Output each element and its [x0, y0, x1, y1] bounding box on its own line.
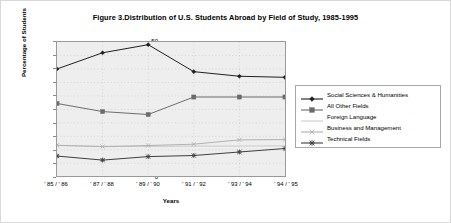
legend-label: Social Sciences & Humanities	[325, 91, 408, 98]
x-axis-tick-label: ' 89 / ' 90	[136, 181, 160, 187]
legend-item[interactable]: Social Sciences & Humanities	[299, 89, 438, 100]
x-axis-title: Years	[56, 197, 286, 204]
legend-item[interactable]: Technical Fields	[299, 133, 438, 144]
x-axis-tick-label: ' 87 / ' 88	[90, 181, 114, 187]
series-all-other-fields	[57, 95, 285, 117]
y-axis-tick-mark	[53, 177, 56, 178]
x-axis-tick-label: ' 85 / ' 86	[44, 181, 68, 187]
y-axis-title: Percentage of Students	[20, 0, 27, 103]
x-axis-tick-label: ' 91 / ' 92	[182, 181, 206, 187]
legend-item[interactable]: All Other Fields	[299, 100, 438, 111]
legend-marker-x-icon	[299, 123, 325, 133]
legend-marker-none-icon	[299, 112, 325, 122]
series-technical-fields	[57, 146, 285, 162]
series-business-and-management	[57, 138, 285, 149]
plot-area	[56, 41, 286, 177]
series-social-sciences-humanities	[57, 43, 285, 80]
legend-marker-square-icon	[299, 101, 325, 111]
legend-item[interactable]: Foreign Language	[299, 111, 438, 122]
legend-item[interactable]: Business and Management	[299, 122, 438, 133]
legend-label: Business and Management	[325, 124, 401, 131]
x-axis-tick-label: ' 93 / ' 94	[228, 181, 252, 187]
x-axis-tick-label: ' 94 / ' 95	[274, 181, 298, 187]
legend-label: Technical Fields	[325, 135, 370, 142]
legend-marker-asterisk-icon	[299, 134, 325, 144]
chart-title: Figure 3.Distribution of U.S. Students A…	[1, 13, 450, 22]
figure-container: Figure 3.Distribution of U.S. Students A…	[0, 0, 451, 223]
data-series-layer	[57, 42, 285, 177]
legend-label: Foreign Language	[325, 113, 376, 120]
chart-legend: Social Sciences & HumanitiesAll Other Fi…	[295, 85, 441, 148]
legend-marker-diamond-icon	[299, 90, 325, 100]
legend-label: All Other Fields	[325, 102, 369, 109]
